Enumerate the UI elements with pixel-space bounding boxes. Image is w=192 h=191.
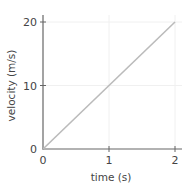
y-tick-label: 20 (23, 16, 37, 29)
y-tick-label: 0 (30, 143, 37, 156)
y-tick-label: 10 (23, 80, 37, 93)
y-axis-title: velocity (m/s) (5, 50, 17, 122)
x-tick-label: 0 (40, 154, 47, 167)
x-axis-title: time (s) (91, 171, 132, 183)
x-tick-label: 2 (172, 154, 179, 167)
x-tick-label: 1 (106, 154, 113, 167)
ticks: 01201020 (23, 16, 179, 167)
velocity-time-chart: 01201020 time (s) velocity (m/s) (0, 0, 192, 191)
